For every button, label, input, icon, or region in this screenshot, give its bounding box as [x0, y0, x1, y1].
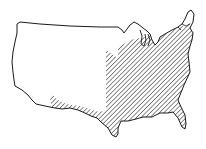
- us-map: Contiguous United States outline: [0, 0, 206, 149]
- shaded-region: [50, 20, 206, 149]
- us-map-svg: [0, 0, 206, 149]
